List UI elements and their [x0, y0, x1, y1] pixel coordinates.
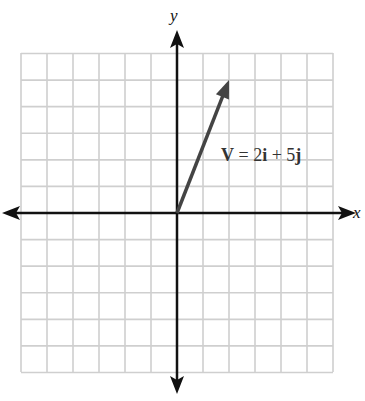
vector-arrowhead-icon — [216, 80, 229, 99]
vector-name: V — [221, 145, 234, 165]
coordinate-plane — [0, 0, 365, 401]
unit-j: j — [295, 145, 301, 165]
y-axis-label: y — [170, 6, 178, 26]
x-axis-label: x — [353, 203, 361, 223]
vector-label: V = 2i + 5j — [221, 145, 301, 166]
